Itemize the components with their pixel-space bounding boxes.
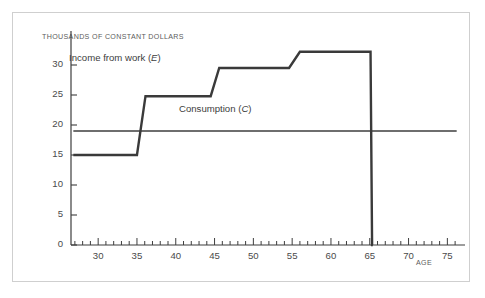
x-tick-label: 45 xyxy=(203,250,227,261)
x-tick-label: 40 xyxy=(164,250,188,261)
x-tick-label: 60 xyxy=(319,250,343,261)
chart-plot-area xyxy=(13,13,471,283)
x-tick-label: 75 xyxy=(435,250,459,261)
x-axis-ticks xyxy=(75,238,455,245)
figure-frame: THOUSANDS OF CONSTANT DOLLARS AGE Income… xyxy=(12,12,470,282)
y-tick-label: 0 xyxy=(41,238,63,249)
x-tick-label: 30 xyxy=(86,250,110,261)
y-tick-label: 25 xyxy=(41,88,63,99)
y-tick-label: 30 xyxy=(41,58,63,69)
x-tick-label: 70 xyxy=(397,250,421,261)
x-tick-label: 35 xyxy=(125,250,149,261)
x-tick-label: 65 xyxy=(358,250,382,261)
y-tick-label: 10 xyxy=(41,178,63,189)
y-tick-label: 20 xyxy=(41,118,63,129)
x-tick-label: 55 xyxy=(280,250,304,261)
y-tick-label: 5 xyxy=(41,208,63,219)
x-tick-label: 50 xyxy=(241,250,265,261)
y-tick-label: 15 xyxy=(41,148,63,159)
income-line xyxy=(73,52,373,245)
